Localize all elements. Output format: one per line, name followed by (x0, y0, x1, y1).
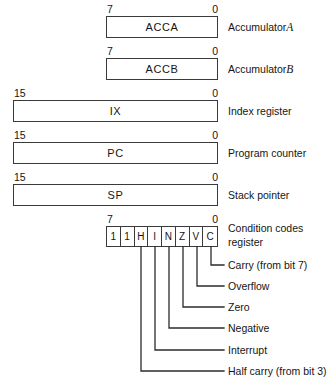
ccr-bit-5-half-carry: H (135, 227, 149, 246)
ccr-lsb-label: 0 (190, 214, 218, 225)
register-description-accb-suffix: B (286, 63, 293, 75)
leader-line-half-carry (141, 247, 224, 371)
flag-label-zero: Zero (228, 301, 250, 313)
ccr-bit-0-carry: C (203, 227, 217, 246)
ccr-bit-2-zero: Z (176, 227, 190, 246)
sp-msb-label: 15 (14, 172, 26, 183)
sp-lsb-label: 0 (190, 172, 218, 183)
accb-msb-label: 7 (107, 46, 113, 57)
register-box-condition-codes: 1 1 H I N Z V C (106, 226, 218, 247)
register-box-pc: PC (13, 142, 218, 164)
register-name-accb: ACCB (146, 64, 179, 75)
ix-msb-label: 15 (14, 88, 26, 99)
ccr-bit-3-negative: N (162, 227, 176, 246)
register-model-diagram: 7 0 ACCA AccumulatorA 7 0 ACCB Accumulat… (0, 0, 336, 383)
register-description-ix: Index register (228, 105, 292, 118)
flag-label-interrupt: Interrupt (228, 344, 267, 356)
register-name-sp: SP (108, 190, 124, 201)
ccr-msb-label: 7 (107, 214, 113, 225)
ix-lsb-label: 0 (190, 88, 218, 99)
register-box-ix: IX (13, 100, 218, 122)
ccr-bit-4-interrupt: I (148, 227, 162, 246)
register-name-ix: IX (110, 106, 122, 117)
register-box-sp: SP (13, 184, 218, 206)
register-description-sp: Stack pointer (228, 189, 289, 202)
flag-label-overflow: Overflow (228, 280, 269, 292)
register-description-accb: AccumulatorB (228, 63, 293, 76)
leader-line-overflow (197, 247, 224, 286)
leader-line-carry (211, 247, 224, 265)
register-name-acca: ACCA (146, 22, 179, 33)
ccr-bit-6: 1 (121, 227, 135, 246)
acca-msb-label: 7 (107, 4, 113, 15)
register-description-acca-text: Accumulator (228, 21, 286, 33)
register-description-accb-text: Accumulator (228, 63, 286, 75)
pc-lsb-label: 0 (190, 130, 218, 141)
pc-msb-label: 15 (14, 130, 26, 141)
ccr-bit-7: 1 (107, 227, 121, 246)
register-description-ccr-line2: register (228, 236, 263, 249)
register-box-accb: ACCB (106, 58, 218, 80)
register-box-acca: ACCA (106, 16, 218, 38)
register-description-acca-suffix: A (286, 21, 293, 33)
leader-line-interrupt (155, 247, 224, 350)
register-description-ccr-line1: Condition codes (228, 222, 303, 235)
register-description-acca: AccumulatorA (228, 21, 293, 34)
register-name-pc: PC (107, 148, 123, 159)
flag-label-negative: Negative (228, 322, 269, 334)
leader-line-negative (169, 247, 224, 328)
register-description-pc: Program counter (228, 147, 306, 160)
flag-label-carry: Carry (from bit 7) (228, 259, 307, 271)
ccr-bit-1-overflow: V (190, 227, 204, 246)
acca-lsb-label: 0 (190, 4, 218, 15)
accb-lsb-label: 0 (190, 46, 218, 57)
flag-label-half-carry: Half carry (from bit 3) (228, 365, 327, 377)
leader-line-zero (183, 247, 224, 307)
